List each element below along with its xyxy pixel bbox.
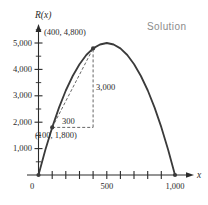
y-tick-label-1000: 1,000 <box>0 144 32 153</box>
run-label: 300 <box>62 117 75 126</box>
solution-caption: Solution <box>147 21 186 32</box>
y-tick-label-3000: 3,000 <box>0 91 32 100</box>
point-marker-origin <box>36 173 40 177</box>
revenue-curve <box>39 43 176 175</box>
point-marker-100-1800 <box>50 125 54 129</box>
y-tick-label-5000: 5,000 <box>0 39 32 48</box>
y-axis-arrow <box>36 24 42 32</box>
x-tick-label-0: 0 <box>26 182 38 191</box>
point-marker-1000-0 <box>173 173 177 177</box>
x-axis-label: x <box>197 171 201 181</box>
rise-label: 3,000 <box>96 83 115 92</box>
y-tick-label-4000: 4,000 <box>0 65 32 74</box>
point-label-400-4800: (400, 4,800) <box>44 28 86 37</box>
y-tick-label-2000: 2,000 <box>0 118 32 127</box>
chart-figure: R(x) x 5,000 4,000 3,000 2,000 1,000 0 5… <box>0 0 208 205</box>
y-axis-label: R(x) <box>35 11 51 21</box>
x-axis-arrow <box>186 172 194 178</box>
point-marker-400-4800 <box>91 46 95 50</box>
point-label-100-1800: (100, 1,800) <box>35 131 77 140</box>
x-tick-label-1000: 1,000 <box>160 182 190 191</box>
x-tick-label-500: 500 <box>95 182 119 191</box>
